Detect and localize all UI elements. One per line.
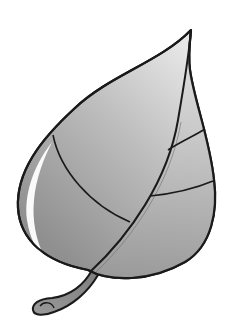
leaf-graphic <box>0 0 232 333</box>
leaf-illustration: leaf illustration <box>0 0 232 333</box>
leaf-stem <box>33 270 98 315</box>
